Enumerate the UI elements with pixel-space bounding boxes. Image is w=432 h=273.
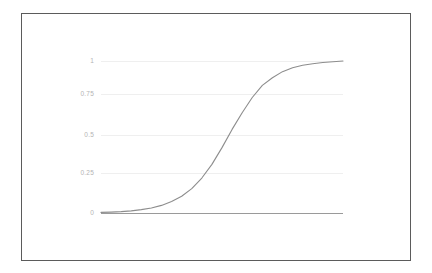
screenshot-root: 1 0.75 0.5 0.25 0 xyxy=(0,0,432,273)
chart-frame: 1 0.75 0.5 0.25 0 xyxy=(21,13,411,261)
sigmoid-curve-path xyxy=(101,61,343,212)
sigmoid-curve xyxy=(22,14,412,262)
plot-area: 1 0.75 0.5 0.25 0 xyxy=(22,14,410,260)
